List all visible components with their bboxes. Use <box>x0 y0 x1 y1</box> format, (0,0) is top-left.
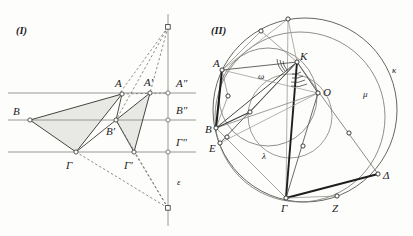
circle-kappa <box>213 18 397 202</box>
segment-E-O <box>220 93 318 143</box>
point-label-A: A <box>115 78 122 89</box>
vertex-marker-top-kappa <box>286 17 290 21</box>
vertex-marker-S-top <box>166 25 171 30</box>
vertex-marker-OGamma-mid <box>301 144 305 148</box>
vertex-marker-B2 <box>166 118 170 122</box>
chord-Gamma-Delta-bold <box>286 174 378 198</box>
segment-O-A <box>222 70 318 93</box>
vertex-marker-rGamma <box>284 196 288 200</box>
vertex-marker-B <box>28 118 32 122</box>
ray-A-topcircle <box>222 31 261 70</box>
dashed-ray-Sbot-G <box>76 152 168 208</box>
vertex-marker-left-mid <box>226 94 230 98</box>
vertex-marker-G <box>74 150 78 154</box>
vertex-marker-rDelta <box>376 172 380 176</box>
point-label-rK: K <box>300 51 307 62</box>
figure-one-caption: (I) <box>16 26 27 37</box>
vertex-marker-A <box>120 92 124 96</box>
dashed-ray-Stop-A <box>117 27 168 97</box>
triangle-A1B1G1-shade <box>116 93 150 152</box>
vertex-marker-upperleft <box>259 29 263 33</box>
circle-label-omega: ω <box>258 72 264 81</box>
point-label-rB: B <box>205 124 212 135</box>
vertex-marker-rK <box>295 60 299 64</box>
point-label-Gamma-double-prime: Γ″ <box>176 137 187 148</box>
angle-ticks-at-K <box>277 59 307 87</box>
point-label-B-prime: B′ <box>106 126 115 137</box>
circle-omega <box>219 48 317 146</box>
circle-label-kappa: κ <box>392 66 396 75</box>
vertex-marker-lambda-mid <box>248 110 252 114</box>
vertex-marker-rZ <box>335 194 339 198</box>
chord-K-Delta <box>297 62 378 174</box>
circle-label-mu: μ <box>363 90 368 99</box>
vertex-marker-rO <box>316 91 320 95</box>
point-label-A-double-prime: A″ <box>176 78 187 89</box>
figure-page: (I) A B Γ A′ B′ Γ′ A″ B″ Γ″ ε (II) A K O… <box>0 0 413 236</box>
point-label-rE: E <box>209 143 216 154</box>
vertex-marker-rE <box>218 141 222 145</box>
segment-A-Gammaline <box>222 19 288 70</box>
point-label-Gamma: Γ <box>66 160 72 171</box>
point-label-rDelta: Δ <box>383 170 389 181</box>
point-label-rA: A <box>213 58 220 69</box>
point-label-rO: O <box>323 87 331 98</box>
vertex-marker-G1 <box>132 150 136 154</box>
point-label-rGamma: Γ <box>281 203 287 214</box>
point-label-B-double-prime: B″ <box>176 105 187 116</box>
vertex-marker-B1 <box>114 118 118 122</box>
vertex-marker-B-lower <box>225 135 229 139</box>
point-label-rZ: Z <box>332 203 338 214</box>
vertex-marker-rA <box>220 68 224 72</box>
point-label-Gamma-prime: Γ′ <box>124 160 133 171</box>
line-label-epsilon: ε <box>177 178 181 187</box>
vertex-marker-rB <box>214 126 218 130</box>
segment-O-B <box>216 93 318 128</box>
circle-label-lambda: λ <box>262 152 266 161</box>
figure-one-drawing <box>0 0 413 236</box>
point-label-B: B <box>13 106 20 117</box>
vertex-marker-G2 <box>166 150 170 154</box>
vertex-marker-A1 <box>148 91 152 95</box>
chord-K-lambdapoint <box>250 62 297 112</box>
point-label-A-prime: A′ <box>144 77 153 88</box>
triangle-ABG-shade <box>30 94 122 152</box>
vertex-marker-A2 <box>166 91 170 95</box>
vertex-marker-right-mid <box>347 131 351 135</box>
figure-two-caption: (II) <box>211 26 226 37</box>
vertex-marker-S-bottom <box>166 206 171 211</box>
